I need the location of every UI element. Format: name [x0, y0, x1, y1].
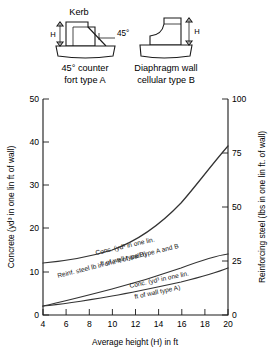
- diagram-b-caption-line1: Diaphragm wall: [134, 63, 197, 73]
- diagram-a-caption-line2: fort type A: [64, 75, 106, 85]
- left-axis-ticks: [43, 99, 49, 315]
- diagram-counterfort-wall: Kerb H 45° 45° counter fort type A: [50, 7, 129, 85]
- x-axis-ticks: [43, 309, 228, 315]
- diaphragm-wall-shape: [150, 18, 181, 45]
- h-label-b: H: [194, 27, 199, 36]
- x-axis-title: Average height (H) in ft: [92, 337, 179, 347]
- left-tick-40: 40: [29, 137, 39, 147]
- counterfort-stem-shape: [66, 22, 95, 46]
- x-tick-12: 12: [131, 319, 141, 329]
- left-axis-tick-labels: 0 10 20 30 40 50: [29, 94, 39, 320]
- right-axis-ticks: [222, 99, 228, 315]
- right-tick-100: 100: [232, 94, 247, 104]
- right-tick-25: 25: [232, 256, 242, 266]
- left-tick-0: 0: [34, 310, 39, 320]
- diagram-b-caption-line2: cellular type B: [137, 75, 195, 85]
- x-tick-8: 8: [87, 319, 92, 329]
- x-tick-4: 4: [41, 319, 46, 329]
- left-tick-30: 30: [29, 180, 39, 190]
- x-tick-16: 16: [177, 319, 187, 329]
- counterfort-base-slab: [56, 46, 115, 58]
- chart-figure: Kerb H 45° 45° counter fort type A: [0, 0, 278, 359]
- curve-label-concrete-a: Conc. (yd³ in one lin. ft of wall type A…: [129, 270, 190, 301]
- left-tick-20: 20: [29, 223, 39, 233]
- diagram-diaphragm-wall: H Diaphragm wall cellular type B: [134, 18, 199, 85]
- x-tick-20: 20: [223, 319, 233, 329]
- x-tick-6: 6: [64, 319, 69, 329]
- angle-45-label: 45°: [117, 29, 129, 38]
- right-tick-50: 50: [232, 202, 242, 212]
- h-label-a: H: [50, 30, 55, 39]
- right-tick-75: 75: [232, 148, 242, 158]
- diaphragm-base-slab: [140, 45, 192, 58]
- x-tick-14: 14: [154, 319, 164, 329]
- x-tick-18: 18: [200, 319, 210, 329]
- left-tick-10: 10: [29, 267, 39, 277]
- diagram-a-caption-line1: 45° counter: [61, 63, 108, 73]
- x-axis-tick-labels: 4 6 8 10 12 14 16 18 20: [41, 319, 233, 329]
- x-tick-10: 10: [108, 319, 118, 329]
- plot-area: 0 10 20 30 40 50 0 25 50 75 100: [29, 94, 246, 329]
- right-axis-tick-labels: 0 25 50 75 100: [232, 94, 247, 320]
- kerb-label: Kerb: [69, 7, 88, 17]
- y2-axis-title: Reinforcing steel (lbs in one lin ft. of…: [257, 131, 267, 283]
- y-axis-title: Concrete (yd³ in one lin ft of wall): [6, 146, 16, 269]
- left-tick-50: 50: [29, 94, 39, 104]
